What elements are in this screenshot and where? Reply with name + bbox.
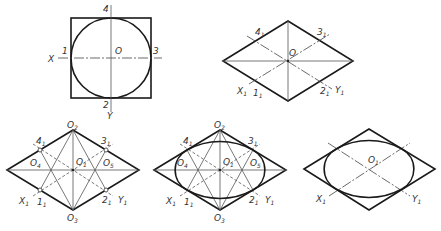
label-o2: O2 (214, 120, 225, 131)
label-2-1: 21 (249, 195, 259, 206)
label-2: 2 (103, 100, 109, 110)
label-y: Y (107, 111, 114, 121)
x1-axis-line (249, 34, 330, 84)
label-o5: O5 (103, 158, 114, 169)
label-3-1: 31 (101, 136, 111, 147)
center-point (287, 60, 289, 62)
y1-axis-line (247, 36, 332, 89)
label-o3: O3 (214, 213, 225, 224)
label-1-1: 11 (184, 197, 194, 208)
panel-circle-in-square: 4 X 1 O 3 2 Y (47, 4, 162, 121)
panel-drawing-arcs: O2 41 31 O4 O1 O5 X1 11 21 Y1 O3 (154, 120, 286, 224)
label-x1: X1 (315, 194, 326, 205)
label-y1: Y1 (265, 195, 274, 206)
label-o1: O1 (223, 157, 234, 168)
label-x1: X1 (165, 196, 176, 207)
label-y1: Y1 (118, 195, 127, 206)
label-3-1: 31 (317, 27, 327, 38)
tangent-point-1 (38, 188, 42, 192)
center-point (219, 169, 222, 172)
label-3-1: 31 (248, 136, 258, 147)
label-y1: Y1 (412, 194, 421, 205)
diagram-canvas: 4 X 1 O 3 2 Y 41 31 O X1 11 21 Y1 (0, 0, 441, 231)
label-o: O (289, 48, 296, 58)
label-4: 4 (103, 4, 109, 14)
label-4-1: 41 (36, 136, 46, 147)
label-4-1: 41 (183, 136, 193, 147)
panel-isometric-rhombus: 41 31 O X1 11 21 Y1 (223, 21, 353, 101)
label-1-1: 11 (37, 197, 47, 208)
label-o1: O1 (368, 155, 379, 166)
label-2-1: 21 (320, 86, 330, 97)
label-x1: X1 (18, 196, 29, 207)
panel-finished-ellipse: O1 X1 Y1 (304, 129, 435, 210)
label-o4: O4 (177, 158, 188, 169)
label-2-1: 21 (102, 195, 112, 206)
label-1: 1 (62, 46, 68, 56)
label-o4: O4 (30, 158, 41, 169)
panel-arc-centres: O2 41 31 O4 O1 O5 X1 11 21 Y1 O3 (7, 120, 139, 224)
tangent-point-2 (104, 188, 108, 192)
ellipse-arc-top (336, 141, 402, 149)
label-o3: O3 (67, 213, 78, 224)
tangent-point-3 (104, 148, 108, 152)
label-o: O (115, 46, 122, 56)
label-3: 3 (153, 46, 159, 56)
label-4-1: 41 (255, 27, 265, 38)
label-x: X (47, 54, 55, 64)
tangent-point-4 (38, 148, 42, 152)
label-o5: O5 (250, 158, 261, 169)
center-point (72, 169, 75, 172)
label-1-1: 11 (253, 88, 263, 99)
label-x1: X1 (236, 86, 247, 97)
label-o1: O1 (76, 157, 87, 168)
label-o2: O2 (67, 120, 78, 131)
label-y1: Y1 (335, 85, 344, 96)
